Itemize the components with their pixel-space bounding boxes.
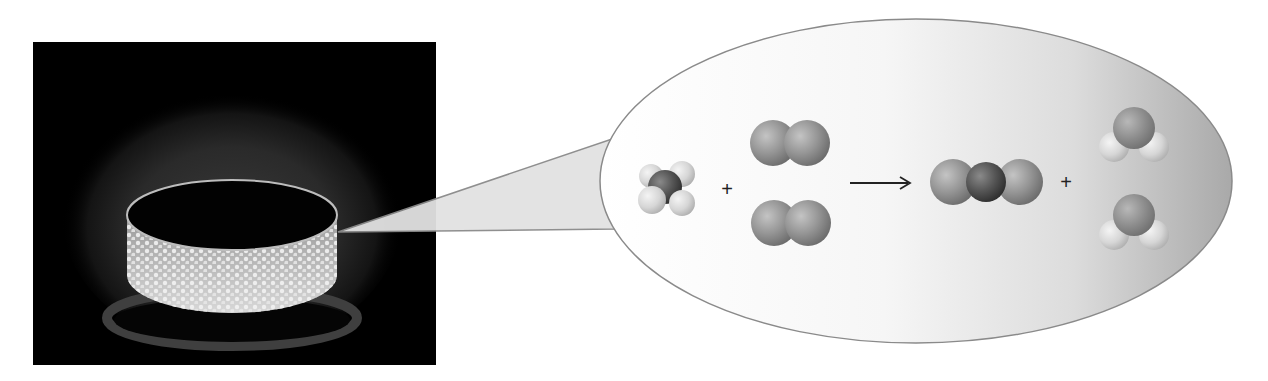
burner-cap [127,180,337,250]
oxygen-atom [784,120,830,166]
carbon-atom [966,162,1006,202]
oxygen-atom [1113,194,1155,236]
hydrogen-atom [638,186,666,214]
burner-photo [33,42,436,365]
zoom-bubble [600,19,1232,343]
carbon-dioxide-molecule [930,159,1043,205]
hydrogen-atom [669,190,695,216]
combustion-figure: + + [0,0,1268,381]
oxygen-atom [1113,107,1155,149]
plus-sign-reactants: + [721,178,733,200]
plus-sign-products: + [1060,171,1072,193]
oxygen-atom [785,200,831,246]
